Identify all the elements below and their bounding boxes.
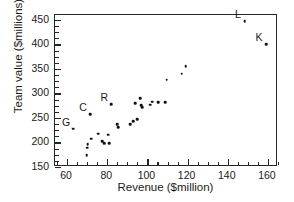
y-axis-minor-tick [55, 51, 59, 52]
y-axis-minor-tick [55, 26, 59, 27]
data-point [108, 142, 111, 145]
y-axis-tick [55, 142, 61, 143]
x-axis-minor-tick [198, 162, 199, 166]
data-point [110, 103, 113, 106]
data-point [107, 133, 110, 136]
plot-area: GCRLK [54, 14, 277, 166]
data-point [139, 97, 142, 100]
y-axis-minor-tick [55, 32, 59, 33]
y-axis-tick-label: 450 [23, 14, 49, 25]
x-axis-minor-tick [238, 162, 239, 166]
y-axis-tick-label: 150 [23, 161, 49, 172]
x-axis-minor-tick [137, 162, 138, 166]
y-axis-tick [55, 69, 61, 70]
y-axis-minor-tick [55, 75, 59, 76]
x-axis-tick-label: 140 [212, 170, 242, 181]
x-axis-minor-tick [178, 162, 179, 166]
data-point [86, 143, 89, 146]
x-axis-tick [268, 159, 269, 165]
data-point [85, 154, 88, 157]
data-point [149, 103, 152, 106]
y-axis-minor-tick [55, 100, 59, 101]
x-axis-minor-tick [248, 162, 249, 166]
x-axis-minor-tick [208, 162, 209, 166]
y-axis-tick [55, 118, 61, 119]
y-axis-tick-label: 300 [23, 87, 49, 98]
x-axis-minor-tick [87, 162, 88, 166]
data-point-label: G [62, 117, 70, 128]
x-axis-title: Revenue ($million) [54, 181, 277, 193]
data-point [151, 100, 154, 103]
x-axis-minor-tick [258, 162, 259, 166]
y-axis-minor-tick [55, 130, 59, 131]
x-axis-minor-tick [57, 162, 58, 166]
y-axis-tick [55, 93, 61, 94]
data-point [244, 20, 247, 23]
y-axis-minor-tick [55, 149, 59, 150]
y-axis-tick [55, 167, 61, 168]
x-axis-tick [228, 159, 229, 165]
data-point [136, 118, 139, 121]
x-axis-minor-tick [97, 162, 98, 166]
data-point [265, 43, 268, 46]
data-point-label: L [235, 9, 241, 20]
data-point [89, 113, 92, 116]
x-axis-minor-tick [168, 162, 169, 166]
data-point [117, 126, 120, 129]
x-axis-minor-tick [157, 162, 158, 166]
y-axis-minor-tick [55, 87, 59, 88]
data-point [157, 101, 160, 104]
data-point-label: C [79, 102, 87, 113]
y-axis-minor-tick [55, 136, 59, 137]
data-point [184, 65, 187, 68]
y-axis-tick-label: 350 [23, 63, 49, 74]
y-axis-tick-label: 400 [23, 38, 49, 49]
data-point [86, 147, 89, 150]
x-axis-tick [147, 159, 148, 165]
y-axis-minor-tick [55, 63, 59, 64]
x-axis-tick [107, 159, 108, 165]
x-axis-tick-label: 60 [51, 170, 81, 181]
x-axis-minor-tick [117, 162, 118, 166]
x-axis-tick-label: 120 [172, 170, 202, 181]
x-axis-minor-tick [127, 162, 128, 166]
y-axis-minor-tick [55, 124, 59, 125]
x-axis-minor-tick [278, 162, 279, 166]
data-point [103, 142, 106, 145]
data-point [129, 123, 132, 126]
y-axis-minor-tick [55, 112, 59, 113]
x-axis-tick-label: 80 [91, 170, 121, 181]
y-axis-tick-label: 200 [23, 136, 49, 147]
y-axis-minor-tick [55, 81, 59, 82]
data-point [180, 73, 183, 76]
y-axis-minor-tick [55, 57, 59, 58]
data-point-label: K [255, 32, 262, 43]
x-axis-minor-tick [77, 162, 78, 166]
y-axis-tick-label: 250 [23, 112, 49, 123]
x-axis-minor-tick [218, 162, 219, 166]
y-axis-tick [55, 20, 61, 21]
data-point [141, 106, 144, 109]
y-axis-minor-tick [55, 155, 59, 156]
data-point-label: R [100, 92, 108, 103]
data-point [90, 137, 93, 140]
x-axis-tick [188, 159, 189, 165]
y-axis-minor-tick [55, 38, 59, 39]
data-point [134, 102, 137, 105]
x-axis-tick [67, 159, 68, 165]
data-point [165, 78, 168, 81]
scatter-chart-figure: Team value ($millions) GCRLK Revenue ($m… [0, 0, 294, 202]
data-point [132, 120, 135, 123]
y-axis-minor-tick [55, 106, 59, 107]
data-point [72, 127, 75, 130]
x-axis-tick-label: 160 [252, 170, 282, 181]
data-point [164, 101, 167, 104]
y-axis-tick [55, 44, 61, 45]
x-axis-tick-label: 100 [131, 170, 161, 181]
data-point [97, 132, 100, 135]
